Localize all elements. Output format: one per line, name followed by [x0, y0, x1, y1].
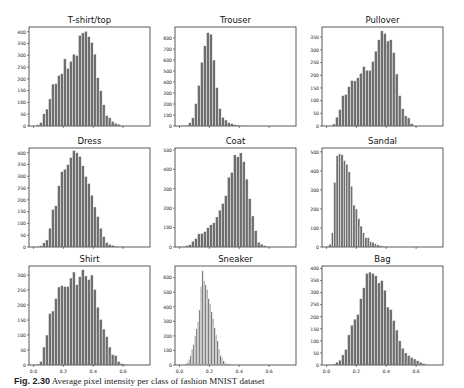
histogram-bar [344, 349, 347, 365]
histogram-bar [191, 241, 194, 247]
histogram-bar [188, 123, 191, 126]
histogram-bar [84, 176, 87, 247]
histogram-bar [197, 234, 200, 247]
y-tick-label: 400 [163, 305, 172, 310]
histogram-bar [48, 313, 51, 365]
histogram-bar [108, 118, 111, 126]
histogram-bar [392, 52, 395, 126]
y-tick-label: 800 [163, 36, 172, 41]
y-tick-label: 100 [310, 226, 319, 231]
subplot-title: Pullover [365, 15, 400, 25]
histogram-bar [39, 122, 42, 126]
histogram-bar [48, 99, 51, 126]
histogram-bar [334, 182, 336, 247]
histogram-bar [215, 217, 218, 247]
y-tick-label: 250 [17, 65, 26, 70]
y-tick-label: 400 [310, 266, 319, 271]
histogram-bar [346, 164, 348, 247]
histogram-bar [410, 357, 413, 365]
y-tick-label: 400 [17, 30, 26, 35]
histogram-bar [260, 244, 263, 247]
histogram-bar [81, 33, 84, 126]
histogram-bar [99, 91, 102, 126]
y-tick-label: 300 [310, 290, 319, 295]
histogram-bar [413, 359, 416, 365]
histogram-bar [209, 34, 212, 126]
subplot-coat: Coat0100200300400500 [163, 136, 296, 250]
histogram-bar [404, 116, 407, 126]
histogram-bar [377, 283, 380, 365]
y-tick-label: 200 [17, 198, 26, 203]
histogram-bar [360, 226, 362, 247]
y-tick-label: 500 [163, 69, 172, 74]
histogram-bar [51, 311, 54, 365]
histogram-bar [75, 153, 78, 247]
histogram-bar [358, 218, 360, 247]
histogram-bar [105, 115, 108, 126]
x-tick-label: 0.4 [383, 369, 390, 374]
histogram-bar [344, 94, 347, 126]
y-tick-label: 200 [17, 303, 26, 308]
histogram-bar [78, 35, 81, 126]
histogram-bar [353, 319, 356, 365]
y-tick-label: 0 [316, 363, 319, 368]
histogram-bar [96, 307, 99, 365]
y-tick-label: 500 [163, 290, 172, 295]
histogram-bar [245, 179, 248, 247]
histogram-bar [39, 361, 42, 365]
y-tick-label: 350 [310, 278, 319, 283]
y-tick-label: 0 [316, 245, 319, 250]
histogram-bar [203, 46, 206, 126]
y-tick-label: 300 [310, 188, 319, 193]
histogram-bar [57, 186, 60, 247]
histogram-bar [42, 347, 45, 365]
x-tick-label: 0.6 [412, 369, 419, 374]
y-tick-label: 250 [310, 60, 319, 65]
histogram-grid-figure: T-shirt/top050100150200250300350400Trous… [0, 0, 464, 388]
histogram-bar [336, 156, 338, 247]
histogram-bar [221, 117, 224, 126]
y-tick-label: 100 [310, 339, 319, 344]
histogram-bar [48, 228, 51, 247]
subplot-sneaker: Sneaker01002003004005006000.00.20.40.6 [163, 254, 296, 374]
caption-text: Average pixel intensity per class of fas… [52, 376, 265, 386]
histogram-bar [380, 31, 383, 126]
y-tick-label: 0 [316, 124, 319, 129]
histogram-bar [374, 51, 377, 126]
histogram-bar [93, 207, 96, 247]
y-tick-label: 0 [23, 363, 26, 368]
histogram-bar [416, 361, 419, 365]
x-tick-label: 0.0 [30, 369, 37, 374]
histogram-bar [362, 233, 364, 247]
histogram-bar [395, 330, 398, 365]
y-tick-label: 300 [163, 187, 172, 192]
histogram-bar [367, 237, 369, 247]
histogram-bar [108, 347, 111, 365]
histogram-bar [60, 74, 63, 126]
x-tick-label: 0.4 [236, 369, 243, 374]
y-tick-label: 300 [17, 273, 26, 278]
y-tick-label: 200 [17, 77, 26, 82]
figure-caption: Fig. 2.30 Average pixel intensity per cl… [14, 376, 264, 386]
histogram-bar [374, 276, 377, 365]
histogram-bar [84, 31, 87, 126]
y-tick-label: 300 [163, 91, 172, 96]
histogram-bar [87, 183, 90, 247]
histogram-bar [215, 88, 218, 127]
histogram-bar [72, 54, 75, 126]
y-tick-label: 0 [23, 245, 26, 250]
histogram-bar [90, 275, 93, 365]
y-tick-label: 350 [17, 41, 26, 46]
histogram-bar [197, 85, 200, 126]
histogram-bar [251, 216, 254, 247]
histogram-bar [365, 237, 367, 247]
histogram-bar [343, 160, 345, 247]
subplot-title: Dress [78, 136, 103, 146]
y-tick-label: 250 [17, 288, 26, 293]
histogram-bar [63, 286, 66, 365]
y-tick-label: 100 [163, 113, 172, 118]
histogram-bar [359, 73, 362, 126]
y-tick-label: 400 [163, 167, 172, 172]
histogram-bar [233, 155, 236, 247]
histogram-bar [407, 355, 410, 365]
